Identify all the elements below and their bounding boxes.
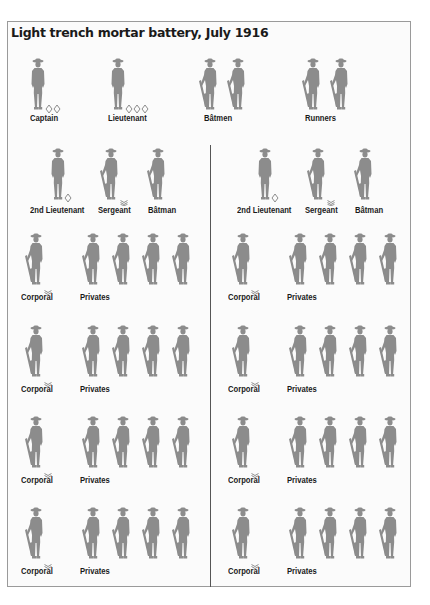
privates-label: Privates (287, 475, 317, 485)
corporal-figure (23, 233, 47, 285)
private-figure (80, 325, 104, 377)
private-figure (317, 325, 341, 377)
armed-soldier-icon (23, 507, 47, 559)
private-figure (377, 416, 401, 468)
private-figure (287, 233, 311, 285)
armed-soldier-icon (225, 58, 249, 110)
private-figure (170, 507, 194, 559)
private-figure (317, 233, 341, 285)
private-figure (80, 507, 104, 559)
armed-soldier-icon (230, 325, 254, 377)
armed-soldier-icon (80, 233, 104, 285)
armed-soldier-icon (197, 58, 221, 110)
armed-soldier-icon (300, 58, 324, 110)
section-leader-label: Sergeant (98, 205, 131, 215)
armed-soldier-icon (230, 233, 254, 285)
corporal-label: Corporal (228, 384, 260, 394)
armed-soldier-icon (305, 148, 329, 200)
armed-soldier-icon (80, 416, 104, 468)
privates-label: Privates (287, 292, 317, 302)
armed-soldier-icon (110, 233, 134, 285)
private-figure (317, 416, 341, 468)
armed-soldier-icon (287, 325, 311, 377)
armed-soldier-icon (377, 416, 401, 468)
armed-soldier-icon (170, 416, 194, 468)
armed-soldier-icon (347, 416, 371, 468)
armed-soldier-icon (98, 148, 122, 200)
private-figure (170, 325, 194, 377)
private-figure (317, 507, 341, 559)
armed-soldier-icon (80, 325, 104, 377)
corporal-label: Corporal (228, 475, 260, 485)
corporal-figure (23, 325, 47, 377)
private-figure (140, 233, 164, 285)
private-figure (140, 507, 164, 559)
private-figure (110, 233, 134, 285)
private-figure (170, 416, 194, 468)
section-leader-label: Bâtman (355, 205, 383, 215)
section-leader-figure (352, 148, 376, 200)
private-figure (347, 507, 371, 559)
corporal-figure (230, 507, 254, 559)
hq-figure (300, 58, 324, 110)
hq-figure (225, 58, 249, 110)
private-figure (80, 233, 104, 285)
armed-soldier-icon (23, 416, 47, 468)
armed-soldier-icon (23, 233, 47, 285)
armed-soldier-icon (80, 507, 104, 559)
privates-label: Privates (80, 384, 110, 394)
private-figure (347, 416, 371, 468)
armed-soldier-icon (287, 416, 311, 468)
hq-figure (197, 58, 221, 110)
privates-label: Privates (287, 384, 317, 394)
armed-soldier-icon (377, 233, 401, 285)
armed-soldier-icon (23, 325, 47, 377)
armed-soldier-icon (352, 148, 376, 200)
armed-soldier-icon (140, 325, 164, 377)
hq-role-label: Bâtmen (204, 113, 232, 123)
section-leader-label: 2nd Lieutenant (30, 205, 84, 215)
armed-soldier-icon (317, 507, 341, 559)
armed-soldier-icon (230, 507, 254, 559)
armed-soldier-icon (347, 507, 371, 559)
armed-soldier-icon (110, 325, 134, 377)
corporal-label: Corporal (21, 566, 53, 576)
corporal-figure (230, 325, 254, 377)
corporal-label: Corporal (21, 475, 53, 485)
privates-label: Privates (80, 566, 110, 576)
armed-soldier-icon (317, 416, 341, 468)
section-divider (210, 145, 211, 587)
section-leader-figure (305, 148, 329, 200)
corporal-label: Corporal (228, 566, 260, 576)
diagram-title: Light trench mortar battery, July 1916 (11, 25, 268, 40)
private-figure (170, 233, 194, 285)
section-leader-label: Bâtman (148, 205, 176, 215)
armed-soldier-icon (170, 233, 194, 285)
privates-label: Privates (80, 475, 110, 485)
private-figure (377, 233, 401, 285)
private-figure (110, 325, 134, 377)
corporal-figure (23, 416, 47, 468)
privates-label: Privates (80, 292, 110, 302)
armed-soldier-icon (377, 507, 401, 559)
armed-soldier-icon (110, 507, 134, 559)
armed-soldier-icon (170, 325, 194, 377)
corporal-label: Corporal (21, 384, 53, 394)
private-figure (287, 416, 311, 468)
corporal-label: Corporal (228, 292, 260, 302)
private-figure (140, 325, 164, 377)
section-leader-figure (145, 148, 169, 200)
private-figure (80, 416, 104, 468)
hq-role-label: Lieutenant (108, 113, 147, 123)
armed-soldier-icon (377, 325, 401, 377)
corporal-label: Corporal (21, 292, 53, 302)
private-figure (347, 233, 371, 285)
private-figure (287, 507, 311, 559)
corporal-figure (23, 507, 47, 559)
armed-soldier-icon (230, 416, 254, 468)
private-figure (377, 507, 401, 559)
armed-soldier-icon (287, 233, 311, 285)
privates-label: Privates (287, 566, 317, 576)
hq-role-label: Runners (305, 113, 336, 123)
armed-soldier-icon (140, 233, 164, 285)
